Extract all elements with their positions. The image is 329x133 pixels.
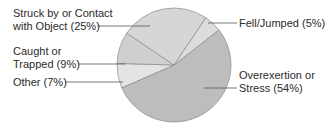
label-fell: Fell/Jumped (5%) <box>239 17 325 30</box>
label-struck: Struck by or Contact with Object (25%) <box>13 7 113 33</box>
label-caught-line2: Trapped (9%) <box>13 58 80 71</box>
label-overexertion: Overexertion or Stress (54%) <box>239 69 315 95</box>
label-overexertion-line1: Overexertion or <box>239 69 315 82</box>
label-other: Other (7%) <box>13 76 67 89</box>
label-struck-line1: Struck by or Contact <box>13 7 113 20</box>
label-caught-line1: Caught or <box>13 45 80 58</box>
pie-slices <box>117 8 231 122</box>
label-struck-line2: with Object (25%) <box>13 20 113 33</box>
label-overexertion-line2: Stress (54%) <box>239 82 315 95</box>
label-caught: Caught or Trapped (9%) <box>13 45 80 71</box>
